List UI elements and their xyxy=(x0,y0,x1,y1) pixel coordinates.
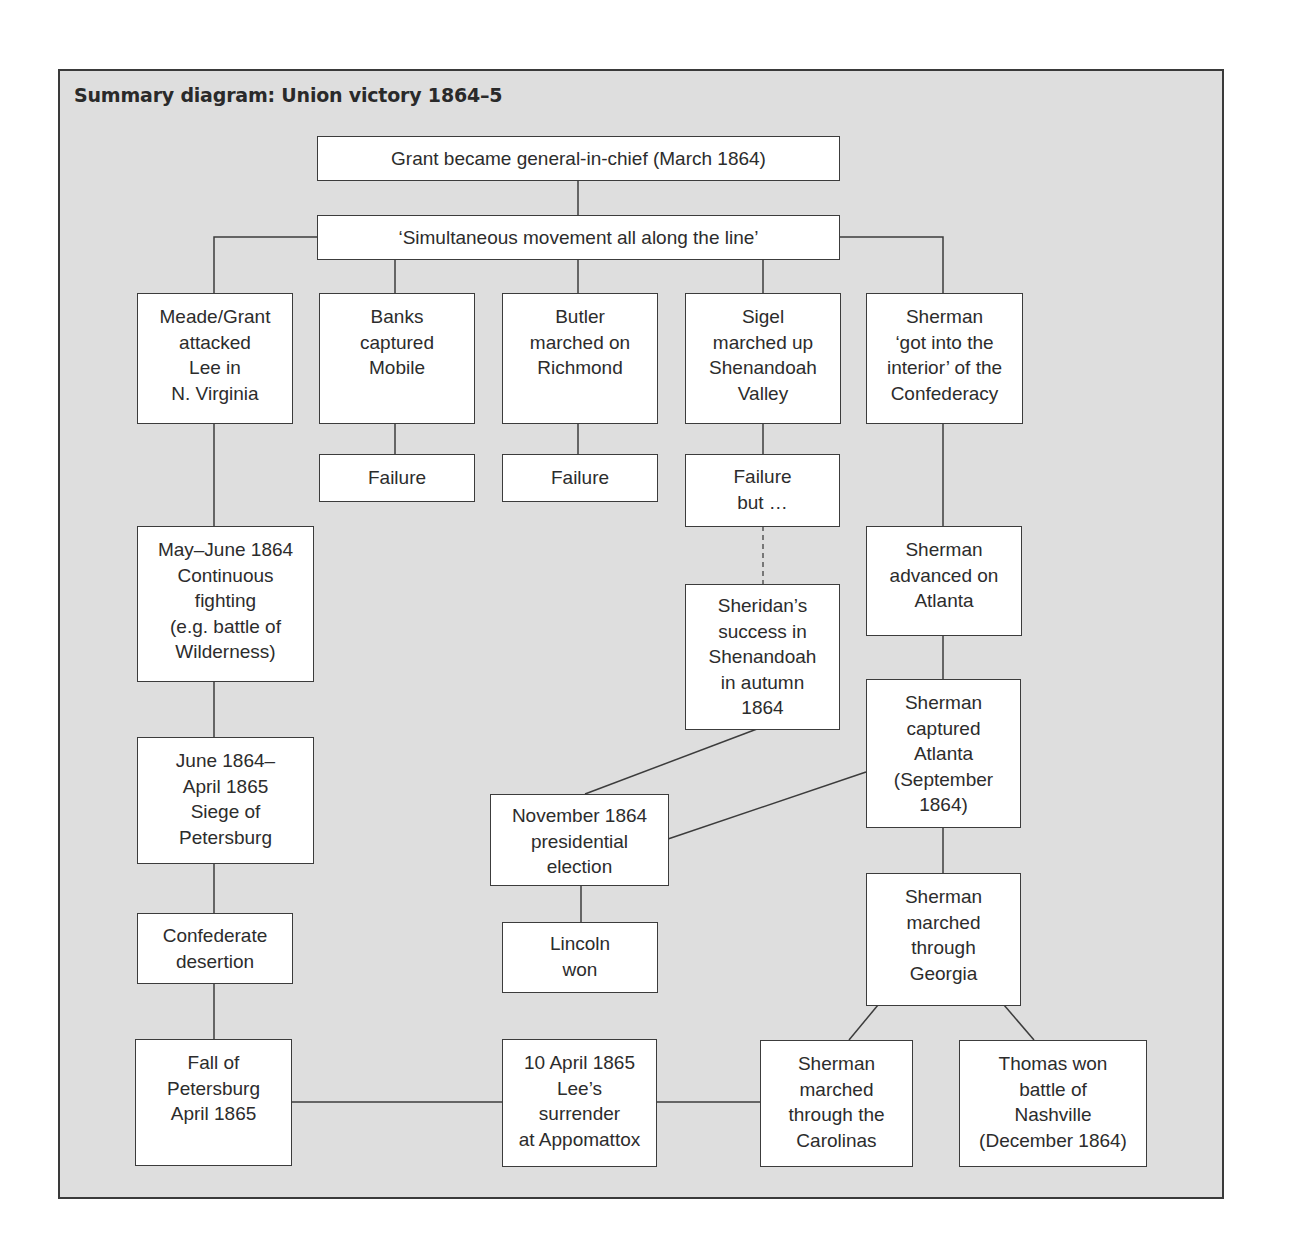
node-confederate-desertion: Confederate desertion xyxy=(137,913,293,984)
node-sigel-marched-shenandoah: Sigel marched up Shenandoah Valley xyxy=(685,293,841,424)
node-sigel-failure-but: Failure but … xyxy=(685,454,840,527)
node-lincoln-won: Lincoln won xyxy=(502,922,658,993)
node-siege-petersburg: June 1864– April 1865 Siege of Petersbur… xyxy=(137,737,314,864)
node-fall-of-petersburg: Fall of Petersburg April 1865 xyxy=(135,1039,292,1166)
node-sheridan-success: Sheridan’s success in Shenandoah in autu… xyxy=(685,584,840,730)
node-thomas-nashville: Thomas won battle of Nashville (December… xyxy=(959,1040,1147,1167)
node-banks-failure: Failure xyxy=(319,454,475,502)
node-butler-failure: Failure xyxy=(502,454,658,502)
node-butler-marched-richmond: Butler marched on Richmond xyxy=(502,293,658,424)
node-sherman-georgia: Sherman marched through Georgia xyxy=(866,873,1021,1006)
node-may-june-1864: May–June 1864 Continuous fighting (e.g. … xyxy=(137,526,314,682)
node-banks-captured-mobile: Banks captured Mobile xyxy=(319,293,475,424)
node-simultaneous-movement: ‘Simultaneous movement all along the lin… xyxy=(317,215,840,260)
node-meade-grant-attacked: Meade/Grant attacked Lee in N. Virginia xyxy=(137,293,293,424)
node-lee-surrender: 10 April 1865 Lee’s surrender at Appomat… xyxy=(502,1039,657,1167)
node-sherman-captured-atlanta: Sherman captured Atlanta (September 1864… xyxy=(866,679,1021,828)
node-grant-general-in-chief: Grant became general-in-chief (March 186… xyxy=(317,136,840,181)
node-sherman-interior: Sherman ‘got into the interior’ of the C… xyxy=(866,293,1023,424)
node-november-election: November 1864 presidential election xyxy=(490,794,669,886)
node-sherman-carolinas: Sherman marched through the Carolinas xyxy=(760,1040,913,1167)
node-sherman-advanced-atlanta: Sherman advanced on Atlanta xyxy=(866,526,1022,636)
